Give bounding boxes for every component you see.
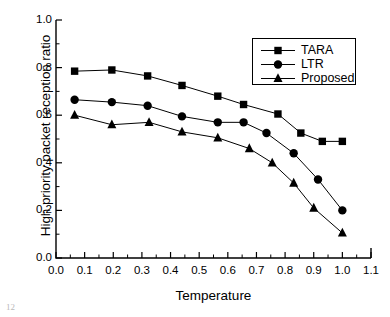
y-axis-title: High priority packet reception ratio <box>38 11 53 261</box>
data-point <box>268 158 277 167</box>
data-point <box>339 138 346 145</box>
data-point <box>108 66 115 73</box>
legend-label: TARA <box>301 43 333 58</box>
legend-label: Proposed <box>301 71 355 86</box>
data-point <box>289 149 297 157</box>
series-proposed <box>70 110 347 237</box>
data-point <box>240 101 247 108</box>
data-point <box>338 206 346 214</box>
triangle-marker <box>259 71 299 86</box>
data-point <box>70 96 78 104</box>
chart-legend: TARALTRProposed <box>252 38 356 85</box>
chart-figure: 0.00.20.40.60.81.0 0.00.10.20.30.40.50.6… <box>0 0 390 317</box>
data-point <box>338 228 347 237</box>
data-point <box>319 138 326 145</box>
data-point <box>262 129 270 137</box>
data-point <box>70 110 79 119</box>
data-point <box>214 118 222 126</box>
data-point <box>178 82 185 89</box>
data-point <box>143 101 151 109</box>
data-point <box>274 110 281 117</box>
x-axis-tick-labels: 0.00.10.20.30.40.50.60.70.80.91.01.1 <box>0 264 390 284</box>
data-point <box>108 98 116 106</box>
legend-item-tara: TARA <box>253 43 357 58</box>
data-point <box>289 178 298 187</box>
data-point <box>144 72 151 79</box>
data-point <box>314 175 322 183</box>
x-tick-label: 1.1 <box>354 264 388 276</box>
circle-marker <box>259 57 299 72</box>
data-series <box>70 66 347 236</box>
data-point <box>214 92 221 99</box>
data-point <box>145 117 154 126</box>
square-marker <box>259 43 299 58</box>
legend-label: LTR <box>301 57 324 72</box>
x-axis-title: Temperature <box>56 288 371 303</box>
data-point <box>297 129 304 136</box>
data-point <box>71 67 78 74</box>
legend-item-proposed: Proposed <box>253 71 357 86</box>
page-number-artifact: 12 <box>6 302 15 312</box>
legend-item-ltr: LTR <box>253 57 357 72</box>
data-point <box>178 112 186 120</box>
data-point <box>239 118 247 126</box>
